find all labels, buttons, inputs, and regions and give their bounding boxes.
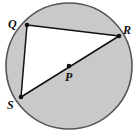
point-s-dot [19,95,24,100]
point-r-label: R [122,23,131,37]
circle-p-diagram: Q R S P [0,0,138,133]
point-p-dot [67,64,72,69]
point-s-label: S [7,98,14,112]
point-p-label: P [65,70,73,84]
point-r-dot [117,34,122,39]
point-q-dot [25,23,30,28]
geometry-figure-container: Q R S P [0,0,138,133]
point-q-label: Q [8,17,17,31]
